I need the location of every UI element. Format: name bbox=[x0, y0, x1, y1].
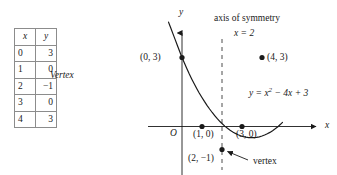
axis-of-symmetry-equation: x = 2 bbox=[234, 29, 254, 39]
figure-canvas: x y 0 3 1 0 2 −1 3 0 4 3 bbox=[0, 0, 337, 175]
parabola-curve bbox=[169, 22, 283, 138]
point-4-3 bbox=[259, 55, 264, 60]
point-0-3 bbox=[179, 55, 184, 60]
point-label-0-3: (0, 3) bbox=[140, 53, 161, 63]
parabola-equation-label: y = x2 − 4x + 3 bbox=[249, 89, 308, 99]
vertex-callout-arrow bbox=[228, 152, 249, 161]
point-label-2-minus1: (2, −1) bbox=[188, 154, 214, 164]
point-label-1-0: (1, 0) bbox=[193, 130, 214, 140]
vertex-callout-label: vertex bbox=[253, 157, 277, 167]
axis-of-symmetry-label: axis of symmetry bbox=[214, 14, 280, 24]
x-axis-label: x bbox=[325, 121, 329, 131]
y-axis-label: y bbox=[179, 8, 183, 18]
point-2-minus1 bbox=[219, 147, 224, 152]
point-label-3-0: (3, 0) bbox=[236, 130, 257, 140]
origin-label: O bbox=[170, 129, 177, 139]
point-label-4-3: (4, 3) bbox=[267, 53, 288, 63]
